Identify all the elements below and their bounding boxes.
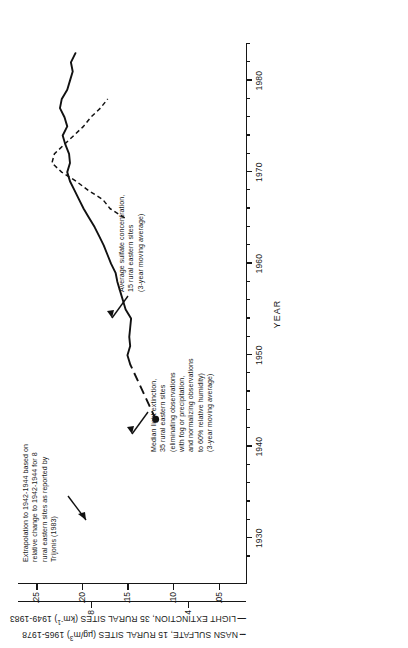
x-axis-minor-tick	[246, 134, 250, 135]
y-axis-extinction-exponent: -1	[57, 619, 63, 626]
y-axis-sulfate-tick	[91, 602, 92, 608]
x-axis-tick	[246, 171, 252, 172]
x-axis-minor-tick	[246, 336, 250, 337]
x-axis-minor-tick	[246, 427, 250, 428]
y-axis-extinction-label-text: LIGHT EXTINCTION, 35 RURAL SITES (km	[63, 614, 236, 624]
y-axis-extinction-tick-label: .20	[77, 592, 87, 604]
series-nasn-sulfate-line	[52, 99, 125, 218]
x-axis-minor-tick	[246, 299, 250, 300]
x-axis-tick-label: 1960	[254, 254, 264, 274]
x-axis-minor-tick	[246, 61, 250, 62]
y-axis-sulfate-tick	[188, 602, 189, 608]
x-axis-tick-label: 1930	[254, 528, 264, 548]
y-axis-extinction-tick-label: .15	[122, 592, 132, 604]
annotation-extrapolation: Extrapolation to 1942-1944 based on rela…	[22, 434, 59, 562]
y-axis-extinction-tick-label: .25	[31, 592, 41, 604]
y-axis-extinction-tick	[36, 584, 37, 590]
y-axis-sulfate-label-tail: ) 1965-1978	[22, 630, 69, 640]
x-axis-tick	[246, 354, 252, 355]
figure-caption-line-1: FIGURE 4.5 Historical trends in light ex…	[402, 624, 408, 648]
x-axis-tick	[246, 79, 252, 80]
x-axis-tick	[246, 445, 252, 446]
solid-line-legend-marker: —	[238, 614, 246, 624]
x-axis-minor-tick	[246, 281, 250, 282]
dashed-line-legend-marker: ---	[240, 630, 246, 640]
x-axis-minor-tick	[246, 317, 250, 318]
y-axis-extinction-tick	[127, 584, 128, 590]
x-axis-minor-tick	[246, 189, 250, 190]
x-axis-minor-tick	[246, 226, 250, 227]
x-axis-minor-tick	[246, 372, 250, 373]
x-axis-minor-tick	[246, 98, 250, 99]
x-axis-minor-tick	[246, 391, 250, 392]
x-axis-tick-label: 1980	[254, 71, 264, 91]
x-axis-title: YEAR	[272, 300, 282, 329]
x-axis-minor-tick	[246, 207, 250, 208]
x-axis-tick-label: 1940	[254, 437, 264, 457]
x-axis-minor-tick	[246, 519, 250, 520]
x-axis-minor-tick	[246, 464, 250, 465]
y-axis-extinction-tick	[173, 584, 174, 590]
x-axis-tick	[246, 262, 252, 263]
x-axis-minor-tick	[246, 153, 250, 154]
figure-caption: FIGURE 4.5 Historical trends in light ex…	[402, 624, 408, 648]
y-axis-sulfate-exponent: 3	[70, 635, 74, 642]
y-axis-sulfate-caption: --- NASN SULFATE, 15 RURAL SITES (µg/m3)…	[22, 630, 246, 642]
x-axis-minor-tick	[246, 555, 250, 556]
y-axis-sulfate-label-text: NASN SULFATE, 15 RURAL SITES (µg/m	[73, 630, 238, 640]
x-axis-minor-tick	[246, 482, 250, 483]
x-axis-line	[246, 44, 247, 584]
x-axis-minor-tick	[246, 409, 250, 410]
x-axis-tick-label: 1970	[254, 162, 264, 182]
figure-body: 193019401950196019701980 .05.10.15.20.25…	[0, 0, 330, 648]
x-axis-minor-tick	[246, 116, 250, 117]
annotation-sulfate: Average sulfate concentration, 15 rural …	[118, 180, 146, 292]
y-axis-extinction-tick	[82, 584, 83, 590]
y-axis-extinction-tick-label: .10	[168, 592, 178, 604]
x-axis-tick	[246, 537, 252, 538]
annotation-median-extinction: Median light extinction, 35 rural easter…	[150, 336, 216, 452]
y-axis-extinction-caption: — LIGHT EXTINCTION, 35 RURAL SITES (km-1…	[10, 614, 246, 626]
y-axis-extinction-label-tail: ) 1949-1983	[10, 614, 57, 624]
x-axis-minor-tick	[246, 43, 250, 44]
y-axis-extinction-tick-label: .05	[214, 592, 224, 604]
x-axis-tick-label: 1950	[254, 345, 264, 365]
y-axis-extinction-tick	[219, 584, 220, 590]
x-axis-minor-tick	[246, 244, 250, 245]
x-axis-minor-tick	[246, 500, 250, 501]
